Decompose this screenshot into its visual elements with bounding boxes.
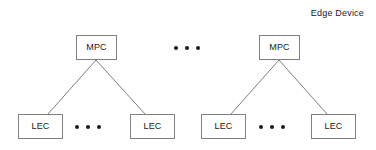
ellipsis-dot: [270, 125, 274, 129]
ellipsis-dot: [75, 125, 79, 129]
lec-node-left-1[interactable]: LEC: [18, 114, 63, 139]
edge-connector-1-0: [231, 60, 279, 114]
lec-node-left-2[interactable]: LEC: [130, 114, 175, 139]
diagram-canvas: Edge Device MPC LEC LEC MPC LEC LEC: [0, 0, 376, 150]
lec-ellipsis-right: [259, 124, 285, 130]
edge-connector-0-0: [48, 60, 96, 114]
ellipsis-dot: [281, 125, 285, 129]
ellipsis-dot: [174, 46, 178, 50]
lec-node-right-2[interactable]: LEC: [311, 114, 356, 139]
lec-ellipsis-left: [75, 124, 101, 130]
edge-connector-0-1: [96, 60, 145, 114]
group-ellipsis: [174, 45, 200, 51]
lec-node-right-1[interactable]: LEC: [201, 114, 246, 139]
ellipsis-dot: [259, 125, 263, 129]
ellipsis-dot: [185, 46, 189, 50]
mpc-node-left[interactable]: MPC: [76, 35, 117, 60]
edge-device-label: Edge Device: [311, 8, 364, 18]
ellipsis-dot: [196, 46, 200, 50]
ellipsis-dot: [97, 125, 101, 129]
ellipsis-dot: [86, 125, 90, 129]
edge-connector-1-1: [279, 60, 327, 114]
mpc-node-right[interactable]: MPC: [259, 35, 300, 60]
